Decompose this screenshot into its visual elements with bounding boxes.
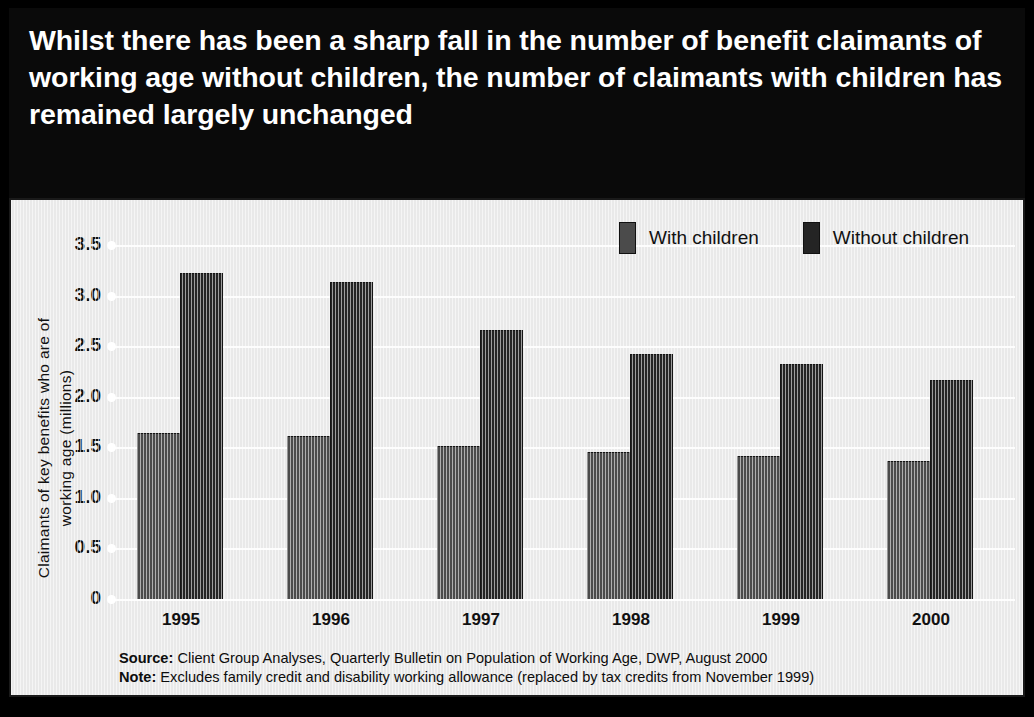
bar-1996-without-children — [330, 282, 373, 599]
bar-1995-without-children — [180, 273, 223, 599]
legend-label-with-children: With children — [649, 227, 759, 249]
bar-1997-with-children — [437, 446, 480, 599]
legend-swatch-without-children — [803, 222, 820, 254]
y-axis-title-line-2: working age (millions) — [55, 317, 77, 578]
chart-panel: With children Without children Claimants… — [9, 198, 1025, 697]
y-axis-title-line-1: Claimants of key benefits who are of — [33, 317, 55, 578]
page-title: Whilst there has been a sharp fall in th… — [29, 22, 1005, 133]
legend-item-without-children: Without children — [803, 222, 969, 254]
y-axis-title: Claimants of key benefits who are of wor… — [29, 200, 81, 695]
legend-item-with-children: With children — [619, 222, 759, 254]
x-axis-tick-label: 1999 — [737, 610, 825, 630]
bar-1997-without-children — [480, 330, 523, 599]
x-axis-tick-label: 1997 — [437, 610, 525, 630]
bar-groups — [115, 245, 1015, 599]
bar-group — [415, 245, 565, 599]
bar-2000-without-children — [930, 380, 973, 599]
footnote-line: Note: Excludes family credit and disabil… — [119, 668, 814, 687]
legend-swatch-with-children — [619, 222, 636, 254]
x-axis-tick-label: 2000 — [887, 610, 975, 630]
footnote-label: Note: — [119, 669, 156, 685]
bar-2000-with-children — [887, 461, 930, 599]
chart-legend: With children Without children — [619, 222, 969, 254]
bar-group — [115, 245, 265, 599]
bar-1995-with-children — [137, 433, 180, 599]
footnote-label: Source: — [119, 650, 173, 666]
x-axis-tick-label: 1996 — [287, 610, 375, 630]
x-axis-tick-label: 1995 — [137, 610, 225, 630]
bar-group — [565, 245, 715, 599]
legend-label-without-children: Without children — [833, 227, 969, 249]
y-axis-tick-label: 0 — [90, 587, 101, 609]
bar-group — [265, 245, 415, 599]
figure-container: Whilst there has been a sharp fall in th… — [0, 0, 1034, 717]
plot-area: 3.53.02.52.01.51.00.50 — [115, 245, 1015, 599]
gridline — [115, 599, 1015, 601]
bar-1999-without-children — [780, 364, 823, 599]
footnotes: Source: Client Group Analyses, Quarterly… — [119, 649, 814, 687]
bar-1998-with-children — [587, 452, 630, 599]
bar-group — [715, 245, 865, 599]
bar-1996-with-children — [287, 436, 330, 599]
bar-group — [865, 245, 1015, 599]
bar-1998-without-children — [630, 354, 673, 599]
x-axis-tick-label: 1998 — [587, 610, 675, 630]
title-band: Whilst there has been a sharp fall in th… — [9, 8, 1025, 198]
footnote-line: Source: Client Group Analyses, Quarterly… — [119, 649, 814, 668]
bar-1999-with-children — [737, 456, 780, 599]
